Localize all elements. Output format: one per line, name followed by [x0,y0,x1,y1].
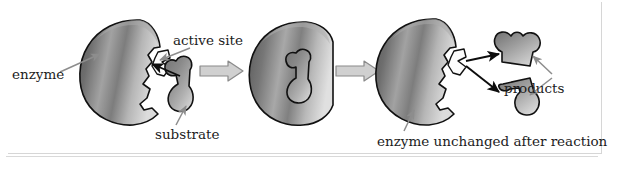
enzyme-reaction-diagram: enzyme active site substrate [0,0,628,171]
arrow-stage2-to-stage3 [336,61,379,81]
stage-1-enzyme-shape [80,20,160,125]
stage-1-substrate-shape [165,56,193,111]
active-site-label: active site [173,32,243,48]
stage-2-enzyme-shape [249,22,333,125]
enzyme-unchanged-label: enzyme unchanged after reaction [377,133,608,149]
product-release-arrow-lower [466,66,499,92]
product-release-arrow-upper [466,54,499,61]
stage-3-enzyme-shape [376,19,466,125]
product-upper-shape [494,32,540,66]
enzyme-reaction-figure: enzyme active site substrate [0,0,628,171]
arrow-stage1-to-stage2 [200,61,243,81]
products-label: products [504,80,565,96]
enzyme-label: enzyme [12,66,64,82]
products-leader-line-upper [533,56,552,74]
substrate-label: substrate [155,126,220,142]
